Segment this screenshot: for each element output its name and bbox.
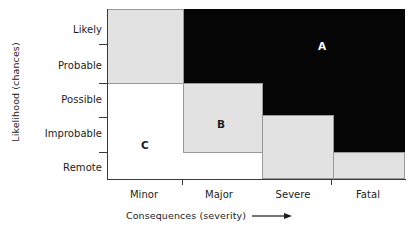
zone-c-block-left	[108, 84, 183, 178]
x-axis-tick-1	[182, 179, 183, 185]
y-tick-label-remote: Remote	[0, 162, 102, 174]
zone-b-block-step	[262, 115, 334, 179]
y-tick-label-probable: Probable	[0, 60, 102, 72]
zone-b-block-upper-left	[107, 9, 184, 84]
zone-a-block-low	[333, 115, 405, 152]
zone-a-block-mid	[262, 83, 405, 115]
zone-b-block-bottom-right	[333, 152, 405, 179]
x-axis-tick-2	[331, 179, 332, 185]
right-arrow-icon	[252, 211, 292, 221]
zone-c-label: C	[141, 139, 149, 151]
zone-b-label: B	[217, 118, 225, 130]
zone-a-label: A	[318, 40, 326, 52]
y-tick-label-possible: Possible	[0, 94, 102, 106]
x-tick-label-fatal: Fatal	[323, 188, 413, 201]
zone-a-block-top	[183, 9, 405, 83]
risk-matrix-chart: Likelihood (chances) Likely Probable Pos…	[0, 0, 418, 236]
zone-c-block-bottom	[183, 153, 262, 178]
x-axis-title-group: Consequences (severity)	[0, 210, 418, 221]
x-axis-title: Consequences (severity)	[126, 210, 246, 221]
plot-area: A B C	[107, 9, 405, 179]
x-axis-line	[107, 179, 406, 180]
y-tick-label-likely: Likely	[0, 24, 102, 36]
y-axis-line	[107, 9, 108, 180]
y-tick-label-improbable: Improbable	[0, 128, 102, 140]
